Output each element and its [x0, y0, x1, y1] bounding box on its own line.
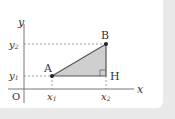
origin-label: O	[12, 91, 20, 102]
tick-x2: x2	[101, 91, 111, 102]
label-b: B	[101, 29, 109, 42]
triangle-abh	[52, 44, 106, 76]
point-b	[104, 42, 108, 46]
y-axis-label: y	[17, 16, 25, 29]
tick-x1: x1	[47, 91, 56, 102]
coordinate-diagram: A B H y x O y2 y1 x1 x2	[0, 0, 175, 119]
label-h: H	[110, 70, 120, 83]
x-axis-label: x	[137, 83, 144, 96]
label-a: A	[43, 62, 53, 75]
tick-y1: y1	[8, 70, 18, 81]
tick-y2: y2	[8, 39, 19, 50]
